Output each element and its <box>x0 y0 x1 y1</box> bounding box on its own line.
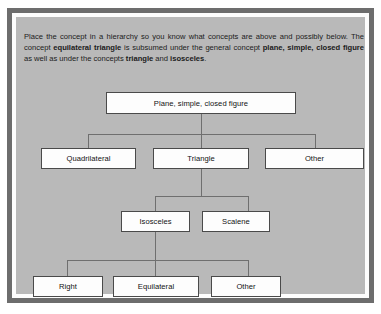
node-other-level4[interactable]: Other <box>211 276 281 297</box>
figure-panel: Place the concept in a hierarchy so you … <box>16 17 365 294</box>
node-quadrilateral[interactable]: Quadrilateral <box>41 148 136 169</box>
connector-isosceles-to-level4 <box>155 232 156 261</box>
connector-right-down <box>67 260 68 276</box>
connector-triangle-down <box>201 134 202 148</box>
node-isosceles[interactable]: Isosceles <box>121 211 190 232</box>
node-other-level2[interactable]: Other <box>265 148 364 169</box>
node-triangle[interactable]: Triangle <box>153 148 249 169</box>
connector-other-level4-down <box>248 260 249 276</box>
figure-root: Place the concept in a hierarchy so you … <box>0 0 381 314</box>
connector-equilateral-down <box>155 260 156 276</box>
node-plane-simple-closed-figure[interactable]: Plane, simple, closed figure <box>106 92 296 114</box>
connector-quadrilateral-down <box>88 134 89 148</box>
figure-white-ring: Place the concept in a hierarchy so you … <box>12 13 369 298</box>
connector-triangle-to-level3 <box>201 169 202 197</box>
connector-level4-bus <box>67 260 248 261</box>
figure-outer-frame: Place the concept in a hierarchy so you … <box>7 8 374 303</box>
connector-isosceles-down <box>155 196 156 211</box>
connector-level3-bus <box>155 196 248 197</box>
connector-root-down <box>201 114 202 135</box>
node-right[interactable]: Right <box>33 276 103 297</box>
connector-other-level2-down <box>315 134 316 148</box>
node-scalene[interactable]: Scalene <box>202 211 270 232</box>
node-equilateral[interactable]: Equilateral <box>113 276 199 297</box>
hierarchy-diagram: Plane, simple, closed figure Quadrilater… <box>16 17 365 294</box>
connector-scalene-down <box>248 196 249 211</box>
